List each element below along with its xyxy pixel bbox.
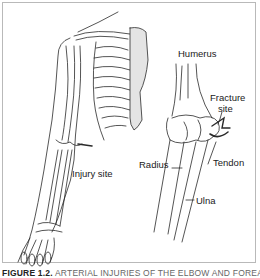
label-humerus: Humerus [178, 48, 217, 59]
label-fracture-site-line2: site [218, 103, 233, 114]
caption-text: ARTERIAL INJURIES OF THE ELBOW AND FOREA… [55, 268, 260, 278]
label-fracture-site-line1: Fracture [210, 92, 245, 103]
arm-anatomy-illustration [0, 0, 260, 278]
figure-caption: FIGURE 1.2. ARTERIAL INJURIES OF THE ELB… [2, 268, 260, 278]
caption-prefix: FIGURE 1.2. [2, 268, 53, 278]
label-ulna: Ulna [196, 195, 216, 206]
label-tendon: Tendon [213, 157, 244, 168]
label-radius: Radius [139, 159, 169, 170]
label-injury-site: Injury site [72, 168, 113, 179]
